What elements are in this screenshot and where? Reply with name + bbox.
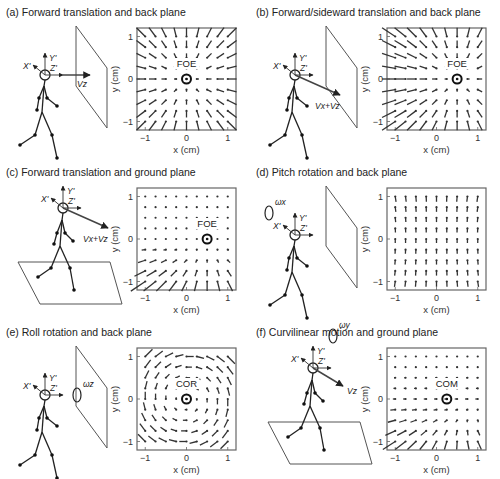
y-axis-label: y (cm)	[109, 226, 120, 252]
back-plane	[76, 26, 107, 128]
flow-field-plot: −10110−1x (cm)y (cm)	[359, 188, 486, 315]
singular-point-label: COR	[176, 378, 197, 389]
velocity-label: Vx+Vz	[83, 234, 109, 244]
rotation-label: ωy	[339, 320, 351, 330]
svg-text:Y': Y'	[299, 213, 307, 223]
x-tick-label: 0	[184, 133, 189, 143]
stick-figure	[18, 70, 59, 160]
camera-frame-axes: Y'X'Z'Vx+Vz	[272, 53, 341, 111]
observer-scene: Y'X'Z'ωx	[265, 186, 357, 320]
x-tick-label: 1	[475, 453, 480, 463]
svg-text:X': X'	[22, 61, 31, 71]
y-tick-label: 1	[128, 192, 133, 202]
y-tick-label: 1	[378, 192, 383, 202]
observer-scene: Y'X'Z'Vx+Vz	[268, 26, 357, 160]
y-tick-label: −1	[123, 437, 133, 447]
rotation-label: ωz	[83, 379, 95, 389]
flow-field-plot: −10110−1x (cm)y (cm)COM	[359, 348, 486, 475]
camera-frame-axes: Y'X'Z'Vz	[22, 53, 90, 89]
svg-text:Z': Z'	[67, 196, 75, 206]
panel-title: (e) Roll rotation and back plane	[6, 326, 152, 338]
x-axis-label: x (cm)	[423, 144, 449, 155]
observer-scene: Y'X'Z'Vzωy	[268, 320, 372, 464]
stick-figure	[286, 363, 326, 452]
panel-f: (f) Curvilinear motion and ground plane−…	[256, 320, 486, 475]
panel-d: (d) Pitch rotation and back plane−10110−…	[256, 166, 486, 320]
svg-text:X': X'	[22, 381, 31, 391]
svg-text:Z': Z'	[299, 223, 307, 233]
svg-text:Y': Y'	[49, 53, 57, 63]
y-tick-label: 0	[128, 234, 133, 244]
x-tick-label: −1	[390, 453, 400, 463]
x-tick-label: 1	[225, 453, 230, 463]
svg-text:Y': Y'	[67, 186, 75, 196]
stick-figure	[268, 70, 309, 160]
rotation-label: ωx	[275, 197, 287, 207]
panel-title: (c) Forward translation and ground plane	[6, 166, 196, 178]
x-axis-label: x (cm)	[173, 144, 199, 155]
svg-text:X': X'	[272, 61, 281, 71]
stick-figure	[268, 230, 309, 320]
panel-title: (b) Forward/sideward translation and bac…	[256, 6, 481, 18]
svg-text:X': X'	[290, 354, 299, 364]
x-axis-label: x (cm)	[173, 464, 199, 475]
panel-a: (a) Forward translation and back plane−1…	[6, 6, 237, 160]
y-tick-label: 0	[378, 394, 383, 404]
svg-text:Y': Y'	[299, 53, 307, 63]
y-tick-label: −1	[123, 277, 133, 287]
x-axis-label: x (cm)	[173, 304, 199, 315]
svg-text:X': X'	[40, 194, 49, 204]
back-plane	[326, 186, 357, 288]
panel-title: (d) Pitch rotation and back plane	[256, 166, 407, 178]
y-axis-label: y (cm)	[109, 386, 120, 412]
flow-field-plot: −10110−1x (cm)y (cm)FOE	[359, 28, 486, 155]
observer-scene: Y'X'Z'Vz	[18, 26, 107, 160]
panel-title: (a) Forward translation and back plane	[6, 6, 186, 18]
x-axis-label: x (cm)	[423, 464, 449, 475]
y-tick-label: −1	[123, 117, 133, 127]
y-tick-label: 0	[128, 394, 133, 404]
flow-field-plot: −10110−1x (cm)y (cm)FOE	[109, 188, 236, 315]
stick-figure	[36, 203, 76, 292]
stick-figure	[18, 390, 59, 479]
singular-point-label: FOE	[197, 218, 217, 229]
x-tick-label: −1	[140, 453, 150, 463]
svg-text:X': X'	[272, 221, 281, 231]
y-tick-label: 0	[378, 234, 383, 244]
x-tick-label: 0	[434, 453, 439, 463]
singular-point-label: COM	[436, 378, 458, 389]
singular-point-label: FOE	[177, 58, 197, 69]
camera-frame-axes: Y'X'Z'Vx+Vz	[40, 186, 109, 244]
y-axis-label: y (cm)	[109, 66, 120, 92]
x-tick-label: 1	[475, 133, 480, 143]
y-tick-label: −1	[373, 277, 383, 287]
x-tick-label: 0	[184, 453, 189, 463]
flow-field-plot: −10110−1x (cm)y (cm)COR	[109, 348, 236, 475]
y-tick-label: −1	[373, 117, 383, 127]
rotation-arrow-icon	[265, 206, 273, 220]
y-tick-label: −1	[373, 437, 383, 447]
velocity-label: Vz	[347, 386, 358, 396]
x-axis-label: x (cm)	[423, 304, 449, 315]
x-tick-label: −1	[140, 293, 150, 303]
svg-text:Z': Z'	[299, 63, 307, 73]
x-tick-label: 0	[434, 293, 439, 303]
velocity-label: Vz	[77, 79, 88, 89]
observer-scene: Y'X'Z'Vx+Vz	[18, 186, 122, 304]
svg-text:Z': Z'	[317, 356, 325, 366]
camera-frame-axes: Y'X'Z'ωz	[22, 373, 95, 402]
svg-text:Y': Y'	[317, 346, 325, 356]
x-tick-label: 1	[225, 293, 230, 303]
panels: (a) Forward translation and back plane−1…	[6, 6, 486, 479]
rotation-arrow-icon	[73, 388, 81, 402]
y-axis-label: y (cm)	[359, 386, 370, 412]
svg-text:Y': Y'	[49, 373, 57, 383]
x-tick-label: −1	[140, 133, 150, 143]
velocity-label: Vx+Vz	[315, 101, 341, 111]
panel-c: (c) Forward translation and ground plane…	[6, 166, 236, 315]
y-axis-label: y (cm)	[359, 226, 370, 252]
svg-text:Z': Z'	[49, 63, 57, 73]
x-tick-label: 0	[184, 293, 189, 303]
panel-e: (e) Roll rotation and back plane−10110−1…	[6, 326, 236, 479]
x-tick-label: 1	[225, 133, 230, 143]
